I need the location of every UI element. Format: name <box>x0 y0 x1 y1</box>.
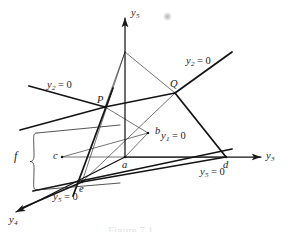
point-Q-label: Q <box>170 79 178 90</box>
y5-axis-label: y5 <box>131 8 139 20</box>
thin-line-group <box>62 52 226 182</box>
point-d-label: d <box>223 160 228 171</box>
brace-f-path <box>30 133 37 190</box>
y4-axis-label: y4 <box>9 215 17 227</box>
brace-group <box>30 125 120 190</box>
axis-group <box>16 18 261 212</box>
segment-P-to-b <box>105 107 148 133</box>
brace-top-connector <box>37 125 120 133</box>
point-e-label: e <box>79 184 84 195</box>
segment-P-to-Q <box>105 93 175 107</box>
y3-axis-label: y3 <box>266 151 274 163</box>
gray-smudge-artifact <box>163 12 172 21</box>
point-P-label: P <box>97 95 104 106</box>
plane-label-y1: y1 = 0 <box>161 131 186 143</box>
segment-Pline-left <box>20 107 105 130</box>
point-P-marker <box>104 106 107 109</box>
point-a-label: a <box>122 160 127 171</box>
plane-label-y2-left: y2 = 0 <box>47 80 72 92</box>
point-c-label: c <box>53 151 58 162</box>
thick-line-group <box>20 52 232 208</box>
figure-container: y5y3y4y2 = 0y2 = 0y1 = 0y5 = 0y5 = 0PQab… <box>0 0 293 232</box>
segment-c-to-b <box>62 133 148 157</box>
point-c-marker <box>61 156 64 159</box>
figure-caption: Figure 7.1 <box>108 224 153 232</box>
y4-axis <box>16 157 125 212</box>
segment-Q-to-d <box>175 93 226 157</box>
plane-label-y2-right: y2 = 0 <box>186 56 211 68</box>
plane-label-y5-bottom: y5 = 0 <box>53 192 78 204</box>
figure-drawing <box>0 0 293 232</box>
segment-apex-to-Q <box>125 52 175 93</box>
point-b-label: b <box>155 126 160 137</box>
segment-a-to-b <box>125 133 148 157</box>
point-a-marker <box>124 156 127 159</box>
plane-label-y5-right: y5 = 0 <box>200 167 225 179</box>
point-Q-marker <box>174 92 177 95</box>
point-b-marker <box>147 132 150 135</box>
segment-e-to-apex <box>82 52 125 182</box>
brace-f-label: f <box>14 150 18 162</box>
point-d-marker <box>225 156 228 159</box>
